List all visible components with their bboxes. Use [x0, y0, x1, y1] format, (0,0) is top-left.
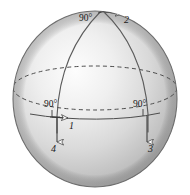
angle-label-top: 90°	[79, 14, 92, 24]
vector-label-1: 1	[69, 121, 74, 131]
angle-label-left: 90°	[44, 100, 57, 110]
sphere-figure: 90° 90° 90° 1 2 3 4	[0, 0, 190, 195]
sphere-rim-shade	[13, 11, 177, 187]
vector-label-4: 4	[51, 144, 56, 154]
vector-label-2: 2	[124, 15, 129, 25]
vector-label-3: 3	[148, 144, 153, 154]
angle-label-right: 90°	[133, 100, 146, 110]
sphere-diagram-svg	[0, 0, 190, 195]
sphere-body	[13, 11, 177, 187]
